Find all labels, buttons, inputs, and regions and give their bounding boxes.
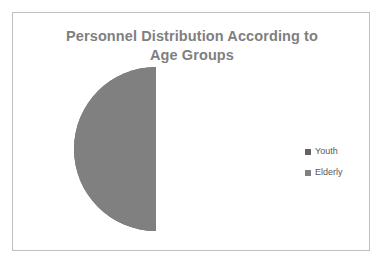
- legend-item-youth[interactable]: Youth: [305, 141, 369, 162]
- legend-swatch-youth-icon: [305, 149, 311, 155]
- chart-legend: Youth Elderly: [305, 141, 369, 183]
- plot-area: Youth Elderly: [13, 13, 371, 252]
- legend-label-elderly: Elderly: [315, 167, 343, 178]
- pie-slice-elderly[interactable]: [74, 67, 156, 231]
- pie-chart-svg: [73, 66, 239, 232]
- legend-label-youth: Youth: [315, 146, 338, 157]
- legend-swatch-elderly-icon: [305, 170, 311, 176]
- chart-frame: Personnel Distribution According to Age …: [12, 12, 370, 251]
- legend-item-elderly[interactable]: Elderly: [305, 162, 369, 183]
- pie-chart: [73, 66, 239, 232]
